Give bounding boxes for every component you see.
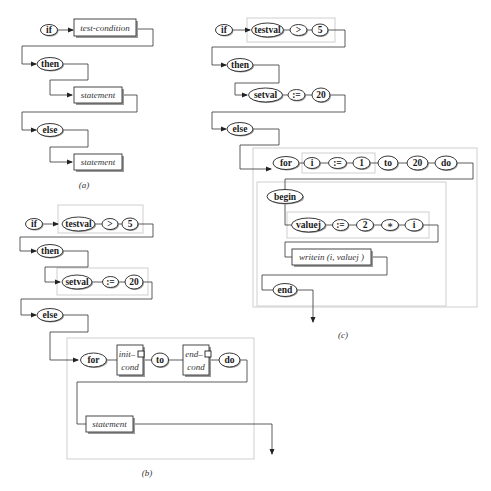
keyword-do: do	[435, 156, 458, 171]
nonterminal-label: end–	[185, 349, 203, 359]
statement-box: statement	[86, 416, 135, 434]
keyword-else: else	[37, 309, 64, 323]
nonterminal-label: cond	[121, 362, 139, 372]
keyword-label: if	[31, 219, 38, 229]
keyword-else: else	[37, 124, 64, 138]
operator-gt: >	[290, 25, 308, 37]
nonterminal-label: statement	[81, 157, 116, 167]
nonterminal-label: init–	[119, 349, 136, 359]
node-label: :=	[336, 220, 345, 230]
node-label: valuej	[296, 220, 321, 230]
diagram-b: if testval > 5 then setval	[20, 205, 272, 478]
node-label: i	[413, 220, 416, 230]
keyword-label: to	[156, 355, 164, 365]
identifier-setval: setval	[62, 275, 93, 290]
keyword-label: end	[278, 285, 294, 295]
operator-assign: :=	[103, 277, 120, 289]
keyword-label: do	[441, 158, 451, 168]
keyword-if: if	[26, 219, 44, 231]
literal-5: 5	[312, 24, 329, 37]
operator-gt: >	[102, 219, 119, 231]
node-label: testval	[65, 219, 92, 229]
keyword-if: if	[216, 25, 234, 37]
node-label: >	[107, 219, 112, 229]
node-label: testval	[254, 25, 281, 35]
caption-c: (c)	[338, 330, 348, 340]
keyword-if: if	[41, 25, 59, 37]
keyword-label: then	[231, 60, 250, 70]
keyword-then: then	[227, 59, 254, 73]
keyword-end: end	[273, 284, 298, 298]
caption-a: (a)	[79, 180, 90, 190]
literal-1: 1	[353, 157, 371, 170]
node-label: 1	[359, 158, 364, 168]
keyword-to: to	[152, 353, 170, 368]
identifier-setval: setval	[249, 88, 284, 103]
node-label: 20	[413, 158, 423, 168]
literal-20: 20	[407, 156, 429, 171]
else-statement-box: statement	[74, 154, 124, 172]
operator-assign: :=	[333, 220, 350, 232]
init-cond-box: init– cond	[117, 345, 145, 377]
literal-20: 20	[125, 275, 144, 290]
end-cond-box: end– cond	[183, 345, 211, 377]
identifier-i: i	[304, 158, 321, 170]
nonterminal-label: statement	[92, 419, 127, 429]
keyword-label: else	[233, 124, 248, 134]
port-square	[138, 351, 144, 357]
keyword-label: if	[46, 25, 53, 35]
nonterminal-label: test-condition	[80, 23, 130, 33]
node-label: 20	[129, 277, 139, 287]
keyword-then: then	[37, 245, 64, 259]
port-square	[205, 351, 211, 357]
keyword-label: to	[384, 158, 392, 168]
caption-b: (b)	[142, 468, 153, 478]
nonterminal-label: cond	[187, 362, 205, 372]
keyword-for: for	[81, 353, 108, 368]
node-label: 2	[363, 220, 368, 230]
literal-2: 2	[357, 219, 375, 232]
diagram-c: if testval > 5 then setval	[212, 18, 477, 340]
connector-line	[77, 360, 247, 424]
keyword-to: to	[378, 156, 399, 171]
keyword-label: for	[87, 355, 100, 365]
identifier-valuej: valuej	[292, 218, 327, 233]
keyword-for: for	[273, 157, 300, 171]
node-label: :=	[333, 158, 342, 168]
node-label: 5	[318, 25, 323, 35]
syntax-diagram-figure: if test-condition then statement else	[0, 0, 491, 491]
keyword-then: then	[37, 58, 64, 72]
node-label: setval	[254, 90, 278, 100]
operator-assign: :=	[288, 90, 306, 102]
then-statement-box: statement	[74, 87, 124, 105]
nonterminal-label: statement	[81, 90, 116, 100]
node-label: setval	[65, 277, 89, 287]
keyword-label: for	[280, 158, 293, 168]
operator-assign: :=	[329, 158, 348, 170]
node-label: ∗	[387, 220, 394, 230]
node-label: 20	[316, 90, 326, 100]
keyword-label: then	[41, 59, 60, 69]
keyword-label: if	[221, 25, 228, 35]
node-label: :=	[106, 277, 115, 287]
literal-20: 20	[312, 88, 331, 103]
test-condition-box: test-condition	[74, 19, 138, 38]
node-label: >	[296, 25, 301, 35]
identifier-testval: testval	[252, 23, 285, 38]
keyword-label: then	[41, 246, 60, 256]
keyword-label: else	[43, 310, 58, 320]
keyword-label: begin	[274, 192, 297, 202]
identifier-testval: testval	[62, 217, 96, 232]
operator-times: ∗	[382, 220, 400, 232]
identifier-i: i	[405, 219, 424, 232]
node-label: 5	[128, 219, 133, 229]
keyword-begin: begin	[267, 190, 304, 205]
node-label: i	[311, 158, 314, 168]
keyword-else: else	[227, 123, 254, 137]
keyword-label: do	[224, 355, 234, 365]
literal-5: 5	[122, 218, 139, 231]
writein-statement-box: writein (i, valuej )	[292, 249, 373, 267]
keyword-label: else	[43, 125, 58, 135]
node-label: :=	[292, 90, 301, 100]
keyword-do: do	[219, 353, 241, 368]
